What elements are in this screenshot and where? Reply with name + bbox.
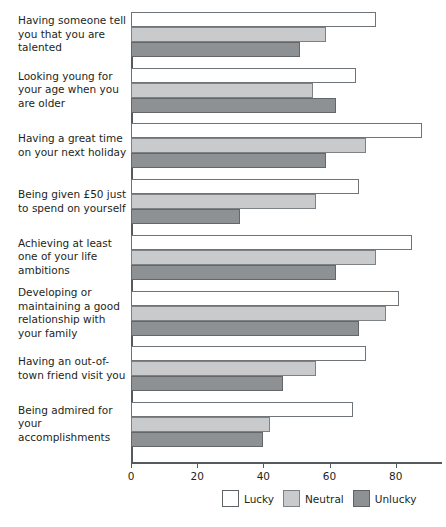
bar-lucky (131, 68, 356, 83)
bar-neutral (131, 138, 366, 153)
legend-swatch-unlucky (353, 490, 370, 507)
category-label: Looking young for your age when you are … (18, 70, 128, 111)
bar-lucky (131, 123, 422, 138)
legend-label: Lucky (244, 493, 274, 505)
bar-group (131, 123, 442, 168)
bar-neutral (131, 194, 316, 209)
bar-group (131, 68, 442, 113)
bar-unlucky (131, 209, 240, 224)
bar-unlucky (131, 321, 359, 336)
category-label: Having a great time on your next holiday (18, 132, 128, 159)
bar-lucky (131, 12, 376, 27)
x-axis-tick (197, 462, 198, 468)
legend-item-neutral[interactable]: Neutral (283, 490, 344, 507)
bar-neutral (131, 250, 376, 265)
bar-unlucky (131, 42, 300, 57)
legend-swatch-neutral (283, 490, 300, 507)
legend-swatch-lucky (222, 490, 239, 507)
x-axis-tick (396, 462, 397, 468)
bar-lucky (131, 346, 366, 361)
bar-unlucky (131, 265, 336, 280)
bar-group (131, 402, 442, 447)
bar-group (131, 346, 442, 391)
bar-group (131, 291, 442, 336)
bar-group (131, 235, 442, 280)
chart-legend: LuckyNeutralUnlucky (222, 490, 416, 507)
bar-unlucky (131, 376, 283, 391)
legend-label: Neutral (305, 493, 344, 505)
bar-unlucky (131, 432, 263, 447)
bar-lucky (131, 235, 412, 250)
category-label: Being admired for your accomplishments (18, 404, 128, 445)
plot-area (131, 12, 442, 462)
bar-neutral (131, 306, 386, 321)
category-label: Achieving at least one of your life ambi… (18, 237, 128, 278)
category-label: Having an out-of-town friend visit you (18, 355, 128, 382)
bar-neutral (131, 417, 270, 432)
legend-item-unlucky[interactable]: Unlucky (353, 490, 417, 507)
x-axis-tick-label: 20 (190, 470, 203, 482)
bar-neutral (131, 361, 316, 376)
category-label: Developing or maintaining a good relatio… (18, 286, 128, 340)
bar-neutral (131, 83, 313, 98)
x-axis-tick-label: 80 (389, 470, 402, 482)
bar-group (131, 12, 442, 57)
legend-label: Unlucky (375, 493, 417, 505)
legend-item-lucky[interactable]: Lucky (222, 490, 274, 507)
x-axis-tick (330, 462, 331, 468)
bar-unlucky (131, 153, 326, 168)
bar-lucky (131, 402, 353, 417)
horizontal-bar-chart: Having someone tell you that you are tal… (0, 0, 446, 527)
x-axis-tick-label: 60 (323, 470, 336, 482)
x-axis-tick-label: 0 (128, 470, 135, 482)
category-label: Having someone tell you that you are tal… (18, 14, 128, 55)
x-axis-tick (131, 462, 132, 468)
bar-neutral (131, 27, 326, 42)
bar-lucky (131, 179, 359, 194)
bar-unlucky (131, 98, 336, 113)
x-axis-tick (263, 462, 264, 468)
bar-group (131, 179, 442, 224)
x-axis-tick-label: 40 (257, 470, 270, 482)
bar-lucky (131, 291, 399, 306)
category-label: Being given £50 just to spend on yoursel… (18, 188, 128, 215)
